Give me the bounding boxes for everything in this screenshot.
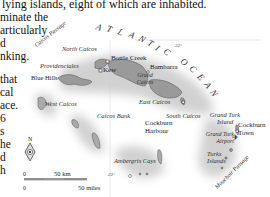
label-north-caicos: North Caicos: [62, 46, 97, 53]
label-ambergris-cays: Ambergris Cays: [114, 158, 156, 165]
turks-caicos-map: ✈: [0, 0, 270, 197]
latitude-label: 22°: [108, 172, 115, 177]
scale-bar: [24, 179, 87, 181]
label-bottle-creek: Bottle Creek: [111, 55, 147, 62]
label-cockburn-harbour: Cockburn Harbour: [145, 119, 179, 135]
label-caicos-bank: Caicos Bank: [97, 113, 130, 120]
compass-north-label: N: [28, 136, 32, 142]
label-bambarra: Bambarra: [150, 64, 178, 71]
label-blue-hills: Blue Hills: [31, 75, 58, 82]
scale-mi-label: 50 miles: [78, 185, 100, 192]
label-west-caicos: West Caicos: [45, 101, 77, 108]
scale-km-label: 50 km: [54, 171, 70, 178]
north-arrow-icon: [25, 143, 35, 161]
label-kew: Kew: [103, 67, 116, 74]
scale-km-zero: 0: [23, 171, 26, 177]
label-cockburn-town: Cockburn Town: [238, 121, 270, 137]
label-turks-islands: Turks Islands: [207, 150, 229, 164]
scale-mi-zero: 0: [23, 185, 26, 191]
label-east-caicos: East Caicos: [139, 99, 170, 106]
label-grand-turk-island: Grand Turk Island: [209, 111, 241, 125]
label-grand-caicos: Grand Caicos: [134, 72, 156, 86]
latitude-label: 22°: [175, 43, 182, 48]
label-grand-turk-airport: Grand Turk Airport: [194, 131, 234, 145]
label-providenciales: Providenciales: [40, 63, 79, 70]
